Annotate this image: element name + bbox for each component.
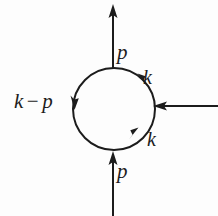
- label-loop-k-lower: k: [147, 129, 156, 149]
- label-loop-k-minus-p-k: k: [14, 89, 24, 113]
- label-loop-k-minus-p: k−p: [14, 91, 53, 112]
- label-momentum-p-bottom: p: [117, 161, 128, 182]
- feynman-diagram-figure: p p k k k−p: [0, 0, 218, 216]
- label-loop-k-minus-p-p: p: [42, 89, 53, 113]
- label-loop-k-upper: k: [143, 67, 152, 87]
- loop-arrowhead-lower-right: [129, 128, 139, 140]
- label-momentum-p-top: p: [117, 42, 128, 63]
- minus-operator-glyph: −: [24, 89, 42, 113]
